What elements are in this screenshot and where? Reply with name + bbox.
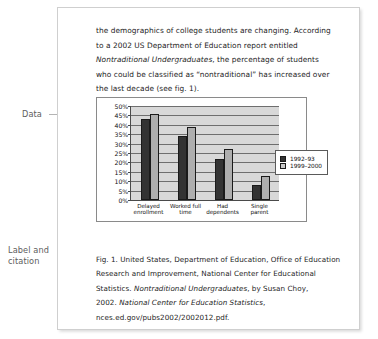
legend-swatch-icon [280,163,286,169]
document-page: the demographics of college students are… [57,7,360,330]
y-axis-tick-label: 10% [106,178,128,185]
bar [252,185,261,200]
y-axis-tick-mark [128,115,131,116]
legend-item: 1992–93 [280,156,322,162]
citation-line-3-post: , by Susan Choy, [247,284,308,293]
chart-plot-area: 1992–931999–2000 [130,106,279,201]
paragraph-text-part1: the demographics of college students are… [96,26,331,50]
y-axis-tick-mark [128,153,131,154]
citation-line-3-pre: Statistics. [96,284,134,293]
body-paragraph: the demographics of college students are… [96,24,336,97]
chart-bar-groups [131,106,279,200]
citation-line-4-pre: 2002. [96,298,119,307]
bar-group [252,106,270,200]
citation-line-4-post: , [263,298,265,307]
citation-line-4-publisher: National Center for Education Statistics [119,298,263,307]
citation-line-2: Research and Improvement, National Cente… [96,267,341,281]
bar-group [215,106,233,200]
y-axis-tick-label: 15% [106,168,128,175]
y-axis-tick-mark [128,181,131,182]
y-axis-tick-label: 35% [106,131,128,138]
bar-group [141,106,159,200]
chart-area: 50%45%40%35%30%25%20%15%10%5%0% 1992–931… [103,104,302,217]
citation-line-3-title: Nontraditional Undergraduates [134,284,247,293]
y-axis-tick-mark [128,144,131,145]
x-axis-category-label: Single parent [242,203,278,215]
y-axis-tick-label: 40% [106,121,128,128]
x-axis-category-label: Delayed enrollment [131,203,167,215]
citation-url: nces.ed.gov/pubs2002/2002012.pdf. [96,311,341,325]
citation-line-4: 2002. National Center for Education Stat… [96,296,341,310]
chart-legend: 1992–931999–2000 [275,150,328,175]
x-axis-category-label: Worked full time [168,203,204,215]
bar [187,127,196,200]
annotation-caption-label: Label and citation [8,245,49,266]
y-axis-tick-mark [128,200,131,201]
y-axis-tick-label: 20% [106,159,128,166]
y-axis-tick-mark [128,125,131,126]
y-axis-tick-mark [128,191,131,192]
y-axis-tick-label: 0% [106,197,128,204]
bar [141,119,150,200]
legend-swatch-icon [280,156,286,162]
chart-y-axis: 50%45%40%35%30%25%20%15%10%5%0% [103,106,128,200]
bar [150,114,159,200]
y-axis-tick-label: 45% [106,112,128,119]
bar [224,149,233,200]
y-axis-tick-mark [128,106,131,107]
citation-line-1: Fig. 1. United States, Department of Edu… [96,253,341,267]
figure-caption-citation: Fig. 1. United States, Department of Edu… [96,253,341,325]
y-axis-tick-mark [128,172,131,173]
legend-item: 1999–2000 [280,163,322,169]
annotation-data-label: Data [22,109,42,120]
y-axis-tick-mark [128,134,131,135]
y-axis-tick-label: 25% [106,150,128,157]
x-axis-category-label: Had dependents [205,203,241,215]
citation-line-3: Statistics. Nontraditional Undergraduate… [96,282,341,296]
paragraph-report-title: Nontraditional Undergraduates [96,55,212,64]
y-axis-tick-label: 30% [106,140,128,147]
bar [261,176,270,200]
figure-bar-chart: 50%45%40%35%30%25%20%15%10%5%0% 1992–931… [96,97,307,222]
legend-label: 1992–93 [290,156,315,162]
bar-group [178,106,196,200]
y-axis-tick-label: 5% [106,187,128,194]
y-axis-tick-label: 50% [106,103,128,110]
legend-label: 1999–2000 [290,163,322,169]
bar [215,159,224,200]
bar [178,136,187,200]
chart-x-axis-labels: Delayed enrollmentWorked full timeHad de… [130,203,278,215]
y-axis-tick-mark [128,162,131,163]
